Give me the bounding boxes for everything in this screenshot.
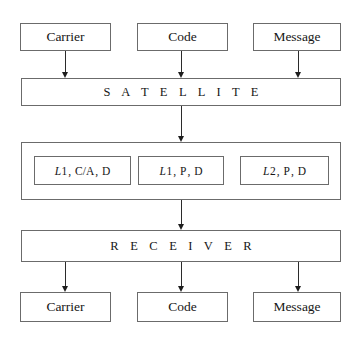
- input-box-code: Code: [137, 23, 228, 51]
- signal-label-l2-p-d: L2, P, D: [263, 165, 306, 177]
- input-label-carrier: Carrier: [46, 29, 84, 45]
- stage-label-satellite: S A T E L L I T E: [99, 85, 262, 100]
- output-label-carrier: Carrier: [46, 299, 84, 315]
- stage-label-receiver: R E C E I V E R: [106, 239, 256, 254]
- output-box-code: Code: [137, 292, 228, 322]
- signal-box-l2-p-d: L2, P, D: [240, 156, 329, 185]
- signal-box-l1-ca-d: L1, C/A, D: [34, 156, 131, 185]
- signal-label-l1-p-d: L1, P, D: [160, 165, 203, 177]
- signal-box-l1-p-d: L1, P, D: [138, 156, 224, 185]
- output-box-message: Message: [253, 292, 341, 322]
- stage-satellite: S A T E L L I T E: [21, 78, 341, 106]
- output-box-carrier: Carrier: [20, 292, 111, 322]
- diagram-canvas: Carrier Code Message S A T E L L I T E L…: [0, 0, 360, 340]
- input-label-code: Code: [168, 29, 197, 45]
- input-label-message: Message: [273, 29, 320, 45]
- signal-label-l1-ca-d: L1, C/A, D: [55, 165, 111, 177]
- input-box-message: Message: [253, 23, 341, 51]
- stage-receiver: R E C E I V E R: [21, 230, 341, 262]
- output-label-message: Message: [273, 299, 320, 315]
- input-box-carrier: Carrier: [20, 23, 111, 51]
- output-label-code: Code: [168, 299, 197, 315]
